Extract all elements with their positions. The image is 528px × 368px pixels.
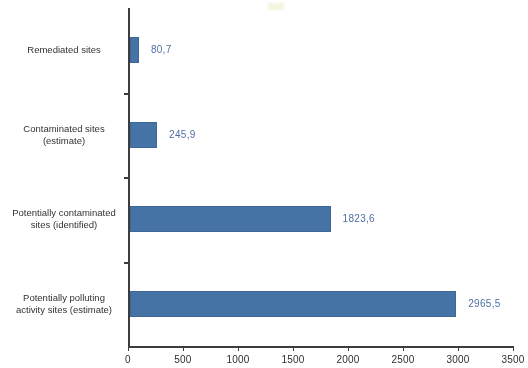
x-axis-tick-label: 0 — [125, 354, 131, 365]
x-axis-tick-label: 3500 — [501, 354, 524, 365]
x-axis-tick — [403, 346, 404, 351]
bar-value-label: 80,7 — [151, 44, 172, 55]
x-axis-tick-label: 2500 — [391, 354, 414, 365]
category-label: Remediated sites — [4, 44, 124, 56]
category-label: Contaminated sites (estimate) — [4, 123, 124, 147]
x-axis-tick — [183, 346, 184, 351]
bar-chart: Remediated sitesContaminated sites (esti… — [0, 0, 528, 368]
x-axis-tick — [348, 346, 349, 351]
x-axis-tick — [293, 346, 294, 351]
bar — [130, 291, 456, 317]
bar-value-label: 2965,5 — [468, 298, 500, 309]
x-axis-tick — [238, 346, 239, 351]
y-axis-tick — [124, 93, 130, 95]
bar — [130, 37, 139, 63]
x-axis-tick — [128, 346, 129, 351]
x-axis-tick-label: 500 — [174, 354, 191, 365]
category-label: Potentially polluting activity sites (es… — [4, 292, 124, 316]
bar-value-label: 245,9 — [169, 129, 196, 140]
bar — [130, 206, 331, 232]
x-axis-tick — [513, 346, 514, 351]
category-axis-labels: Remediated sitesContaminated sites (esti… — [0, 8, 124, 346]
y-axis-tick — [124, 262, 130, 264]
bar — [130, 122, 157, 148]
plot-area: 0500100015002000250030003500 80,7245,918… — [128, 8, 513, 346]
x-axis-line — [128, 346, 513, 348]
x-axis-tick-label: 3000 — [446, 354, 469, 365]
category-label: Potentially contaminated sites (identifi… — [4, 207, 124, 231]
x-axis-tick-label: 1500 — [281, 354, 304, 365]
x-axis-tick-label: 1000 — [226, 354, 249, 365]
x-axis-tick — [458, 346, 459, 351]
x-axis-tick-label: 2000 — [336, 354, 359, 365]
bar-value-label: 1823,6 — [343, 213, 375, 224]
y-axis-tick — [124, 177, 130, 179]
